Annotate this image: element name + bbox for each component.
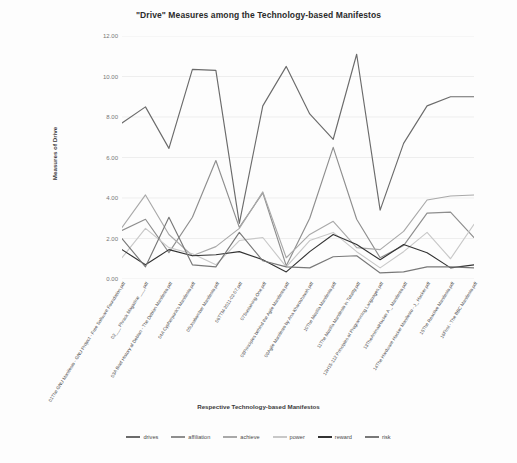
legend-label: reward [335, 434, 352, 440]
y-tick-label: 4.00 [106, 195, 118, 201]
x-tick-label-text: 08Principles behind the Agile Manifesto.… [240, 281, 291, 358]
x-tick-label-text: 13TheAnimatHacker A _ Manifesto.pdf [362, 281, 408, 350]
chart-title: "Drive" Measures among the Technology-ba… [0, 10, 517, 20]
legend-swatch-icon [171, 436, 185, 438]
legend-item-power[interactable]: power [273, 434, 305, 440]
x-axis-title: Respective Technology-based Manifestos [0, 403, 517, 410]
series-line-affiliation [122, 147, 474, 265]
y-tick-label: 0.00 [106, 276, 118, 282]
legend-label: affiliation [188, 434, 210, 440]
legend-label: drives [143, 434, 158, 440]
legend-label: achieve [240, 434, 259, 440]
legend-label: power [290, 434, 305, 440]
y-axis-tick-labels: 0.002.004.006.008.0010.0012.00 [92, 36, 118, 279]
x-tick-label-text: 11The Mozilla Manifesto in Totality.pdf [316, 281, 361, 349]
legend-swatch-icon [318, 436, 332, 438]
y-tick-label: 12.00 [103, 33, 118, 39]
legend-item-reward[interactable]: reward [318, 434, 352, 440]
x-tick-label-text: 09Agile Manifesto by Ana Khoroshavah.pdf [263, 281, 314, 358]
legend-item-risk[interactable]: risk [365, 434, 391, 440]
legend-label: risk [382, 434, 391, 440]
legend-item-affiliation[interactable]: affiliation [171, 434, 210, 440]
legend-swatch-icon [223, 436, 237, 438]
y-axis-title: Measures of Drive [51, 94, 58, 214]
x-tick-label-text: 07Sustaining-One.pdf [239, 281, 267, 321]
legend-swatch-icon [126, 436, 140, 438]
y-tick-label: 8.00 [106, 114, 118, 120]
legend-swatch-icon [365, 436, 379, 438]
legend-item-achieve[interactable]: achieve [223, 434, 259, 440]
y-tick-label: 10.00 [103, 74, 118, 80]
y-tick-label: 6.00 [106, 155, 118, 161]
x-axis-tick-labels: 01The GNU Manifesto - GNU Project - Free… [122, 281, 474, 391]
legend-item-drives[interactable]: drives [126, 434, 158, 440]
legend-swatch-icon [273, 436, 287, 438]
chart-legend: drivesaffiliationachievepowerrewardrisk [0, 434, 517, 440]
y-tick-label: 2.00 [106, 236, 118, 242]
x-tick-label-text: 01The GNU Manifesto - GNU Project - Free… [48, 281, 127, 403]
chart-container: "Drive" Measures among the Technology-ba… [0, 0, 517, 463]
